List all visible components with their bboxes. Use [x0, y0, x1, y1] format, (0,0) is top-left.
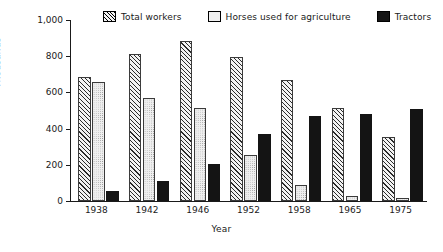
x-tick-label: 1975	[375, 205, 426, 215]
bar-total-workers	[129, 54, 142, 201]
bar-tractors	[106, 191, 119, 201]
x-tick-label: 1946	[172, 205, 223, 215]
bar-tractors	[208, 164, 221, 201]
y-tick-label: 400	[0, 125, 63, 134]
bar-tractors	[410, 109, 423, 201]
x-tick-label: 1958	[274, 205, 325, 215]
bar-total-workers	[230, 57, 243, 201]
y-tick-label: 800	[0, 52, 63, 61]
x-tick-label: 1952	[223, 205, 274, 215]
bar-tractors	[258, 134, 271, 201]
bar-total-workers	[382, 137, 395, 201]
bar-horses	[396, 198, 409, 201]
bar-total-workers	[78, 77, 91, 201]
y-tick-label: 600	[0, 88, 63, 97]
x-tick-label: 1942	[122, 205, 173, 215]
bar-group	[129, 20, 170, 201]
bar-chart: Total workers Horses used for agricultur…	[0, 0, 443, 252]
bar-total-workers	[281, 80, 294, 201]
bar-horses	[295, 185, 308, 201]
y-tick-label: 1,000	[0, 16, 63, 25]
bar-group	[382, 20, 423, 201]
bar-tractors	[309, 116, 322, 201]
bar-horses	[92, 82, 105, 201]
bar-horses	[244, 155, 257, 201]
x-axis-line	[70, 201, 427, 202]
y-tick-label: 0	[0, 197, 63, 206]
bar-tractors	[157, 181, 170, 201]
bar-group	[180, 20, 221, 201]
y-tick-label: 200	[0, 161, 63, 170]
bar-horses	[346, 196, 359, 201]
x-axis-title: Year	[0, 224, 443, 234]
bar-horses	[194, 108, 207, 201]
x-tick-label: 1965	[325, 205, 376, 215]
bar-tractors	[360, 114, 373, 201]
bar-total-workers	[332, 108, 345, 201]
y-axis-title: Thousands	[0, 37, 2, 88]
x-tick-label: 1938	[71, 205, 122, 215]
bar-horses	[143, 98, 156, 201]
bar-group	[78, 20, 119, 201]
bar-group	[230, 20, 271, 201]
plot-area	[71, 20, 426, 201]
bar-group	[332, 20, 373, 201]
bar-total-workers	[180, 41, 193, 201]
y-tick-mark	[66, 201, 71, 202]
bar-group	[281, 20, 322, 201]
